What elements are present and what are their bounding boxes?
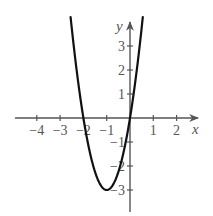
y-tick-label: 2 <box>118 63 125 78</box>
x-tick-label: −3 <box>53 123 68 138</box>
x-tick-label: 2 <box>173 123 180 138</box>
y-tick-label: −1 <box>110 135 125 150</box>
x-axis-label: x <box>191 121 199 137</box>
y-tick-label: 1 <box>118 87 125 102</box>
y-tick-label: 3 <box>118 39 125 54</box>
y-axis-label: y <box>114 18 123 34</box>
x-tick-label: −4 <box>29 123 44 138</box>
parabola-chart: −4−3−2−112 x −3−2−1123 y <box>0 0 213 216</box>
x-tick-label: 1 <box>150 123 157 138</box>
x-tick-label: −2 <box>76 123 91 138</box>
x-axis: −4−3−2−112 x <box>15 115 199 138</box>
parabola-curve <box>71 17 143 190</box>
